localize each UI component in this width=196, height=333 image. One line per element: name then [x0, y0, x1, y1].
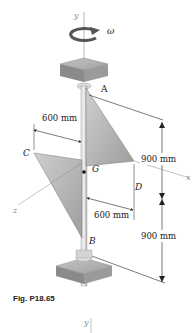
svg-text:600 mm: 600 mm	[42, 113, 77, 123]
dimension-vertical: 900 mm 900 mm	[140, 122, 190, 282]
y-axis-label: y	[73, 11, 79, 20]
dimension-upper-horizontal: 600 mm	[34, 113, 81, 150]
x-axis: x	[186, 173, 191, 182]
point-a-label: A	[100, 84, 108, 94]
x-axis-label: x	[186, 173, 191, 182]
svg-text:y: y	[83, 318, 89, 327]
rotation-arrow-icon: ω	[71, 26, 115, 40]
second-figure-y-axis: y	[83, 318, 91, 333]
y-axis: y	[73, 11, 84, 60]
svg-text:600 mm: 600 mm	[94, 210, 129, 220]
upper-plate	[86, 88, 134, 166]
point-d-label: D	[134, 182, 142, 192]
bottom-bearing-block	[56, 250, 112, 284]
lower-plate	[34, 153, 82, 238]
svg-text:900 mm: 900 mm	[141, 231, 176, 241]
point-c-label: C	[23, 148, 30, 158]
svg-text:900 mm: 900 mm	[141, 154, 176, 164]
point-b-label: B	[88, 236, 96, 246]
z-axis-label: z	[12, 206, 18, 215]
center-of-mass-point-g	[82, 170, 86, 174]
omega-label: ω	[107, 26, 115, 36]
figure-diagram: y ω x z G A C D B 600 mm	[0, 0, 196, 333]
point-g-label: G	[92, 164, 99, 174]
figure-caption: Fig. P18.65	[13, 294, 55, 303]
